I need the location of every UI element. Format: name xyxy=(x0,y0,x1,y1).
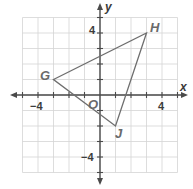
x-tick-label-neg4: −4 xyxy=(30,100,43,112)
vertex-label-g: G xyxy=(40,68,50,83)
y-axis-down-arrow-icon xyxy=(97,178,103,185)
y-tick-label-neg4: −4 xyxy=(81,151,94,163)
coordinate-plane: x y O −4 4 4 −4 G H J xyxy=(0,0,193,189)
vertex-label-h: H xyxy=(150,20,160,35)
x-axis-left-arrow-icon xyxy=(10,92,17,98)
vertex-label-j: J xyxy=(115,126,123,141)
x-axis-label: x xyxy=(179,80,188,94)
origin-label: O xyxy=(88,97,98,112)
y-axis-up-arrow-icon xyxy=(97,3,103,10)
y-tick-label-4: 4 xyxy=(89,24,96,36)
axes xyxy=(10,3,188,185)
y-axis-label: y xyxy=(104,0,113,14)
x-tick-label-4: 4 xyxy=(158,100,165,112)
